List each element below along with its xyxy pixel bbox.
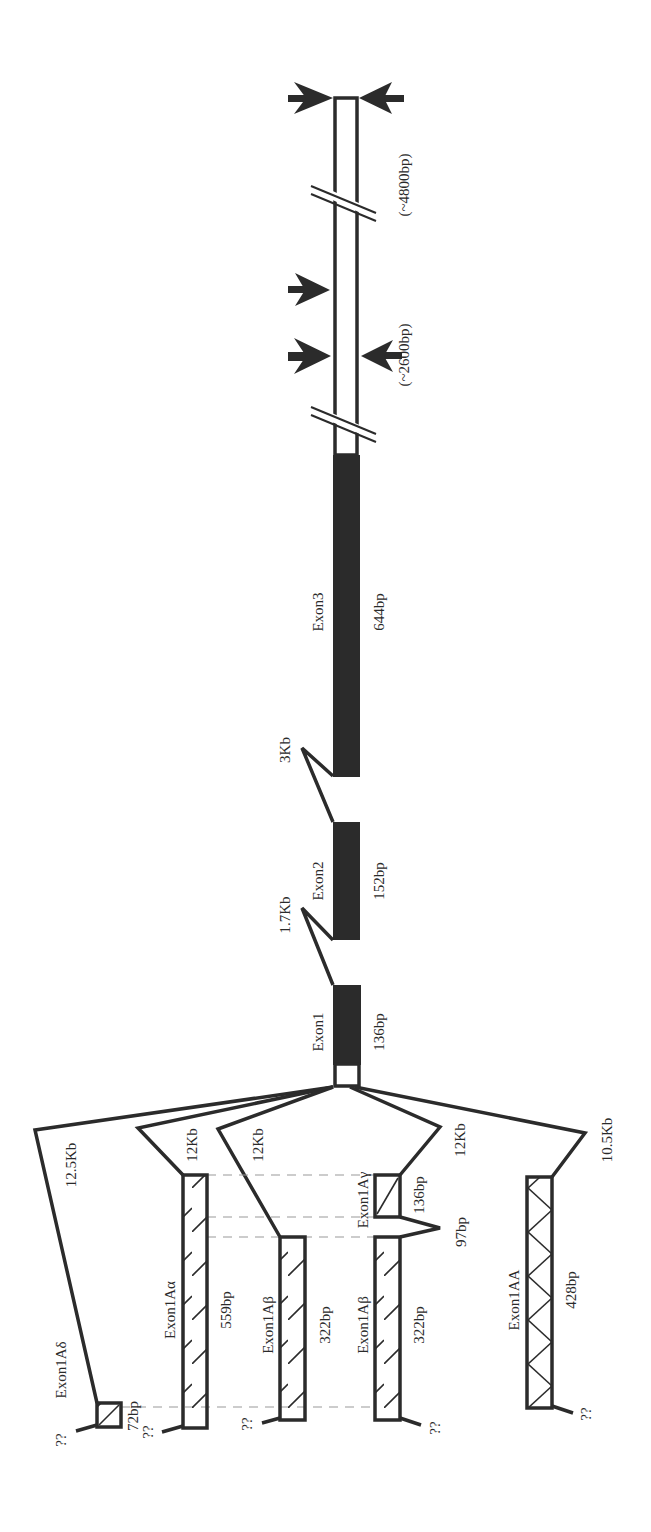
- exon1a-beta-right-size-label: 322bp: [411, 1306, 427, 1344]
- splice-connections: [35, 1087, 585, 1403]
- intron-12kb-gamma-label: 12Kb: [452, 1123, 468, 1156]
- exon1a-gamma-label: Exon1Aγ: [355, 1171, 371, 1228]
- exon1a-alpha-size-label: 559bp: [218, 1291, 234, 1329]
- exon2-block: [333, 822, 360, 940]
- intron-12kb-alpha-label: 12Kb: [184, 1128, 200, 1161]
- intron-1-2-line: [302, 908, 333, 985]
- unknown-upstream-aa: ??: [578, 1407, 594, 1421]
- arrow-right-icon: [288, 82, 333, 114]
- upstream-stub: [262, 1418, 280, 1423]
- exon1aa-size-label: 428bp: [563, 1271, 579, 1309]
- unknown-upstream-beta-left: ??: [239, 1417, 255, 1431]
- exon1a-beta-left-size-label: 322bp: [317, 1306, 333, 1344]
- utr-4800-label: (~4800bp): [396, 153, 413, 216]
- upstream-stub: [400, 1418, 421, 1425]
- arrow-right-icon: [288, 338, 331, 374]
- dashed-guides: [121, 1175, 375, 1407]
- utr-3prime-box: [335, 98, 357, 455]
- unknown-upstream-beta-right: ??: [427, 1421, 443, 1435]
- arrow-right-icon: [288, 273, 330, 306]
- exon1a-alpha-label: Exon1Aα: [162, 1281, 178, 1339]
- exon2-size-label: 152bp: [371, 862, 387, 900]
- exon1a-gamma: [375, 1175, 400, 1217]
- intron-12kb-beta-label: 12Kb: [250, 1128, 266, 1161]
- exon1a-delta: [76, 1403, 121, 1431]
- intron-1-7kb-label: 1.7Kb: [277, 896, 293, 933]
- exon1aa-label: Exon1AA: [506, 1269, 522, 1330]
- unknown-upstream-delta: ??: [53, 1433, 69, 1447]
- exon1a-beta-right-label: Exon1Aβ: [355, 1296, 371, 1354]
- exon2-label: Exon2: [310, 861, 326, 900]
- intron-2-3-line: [302, 748, 333, 822]
- intron-10-5kb-label: 10.5Kb: [599, 1118, 615, 1163]
- arrow-left-icon: [359, 82, 404, 114]
- upstream-stub: [76, 1425, 97, 1431]
- unknown-upstream-alpha: ??: [140, 1425, 156, 1439]
- exon1a-delta-label: Exon1Aδ: [53, 1341, 69, 1398]
- exon1a-gamma-size-label: 136bp: [411, 1176, 427, 1214]
- exon1-block: [333, 985, 361, 1065]
- utr-2600-label: (~2600bp): [396, 323, 413, 386]
- exon1-label: Exon1: [310, 1012, 326, 1051]
- exon1-size-label: 136bp: [371, 1013, 387, 1051]
- main-gene: [288, 82, 404, 1086]
- exon1-utr-box: [335, 1064, 359, 1086]
- intron-3kb-label: 3Kb: [277, 737, 293, 763]
- intron-12-5kb-label: 12.5Kb: [63, 1143, 79, 1188]
- exon3-block: [333, 455, 360, 777]
- exon1a-beta-left-label: Exon1Aβ: [260, 1296, 276, 1354]
- exon1a-delta-size-label: 72bp: [125, 1401, 141, 1431]
- intron-97bp-label: 97bp: [453, 1217, 469, 1247]
- exon3-label: Exon3: [310, 592, 326, 631]
- gene-structure-diagram: (~4800bp) (~2600bp) Exon3 644bp 3Kb Exon…: [0, 0, 651, 1532]
- upstream-stub: [552, 1406, 573, 1413]
- upstream-stub: [162, 1426, 183, 1432]
- exon3-size-label: 644bp: [371, 593, 387, 631]
